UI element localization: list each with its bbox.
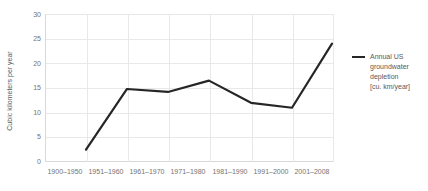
- legend-label-line-3: depletion: [370, 72, 426, 82]
- chart-legend: Annual US groundwater depletion [cu. km/…: [352, 52, 426, 92]
- gridline-x-7: [333, 14, 334, 162]
- y-axis-title: Cubic kilometers per year: [4, 26, 16, 156]
- y-tick-label-15: 15: [18, 84, 41, 91]
- y-tick-label-20: 20: [18, 60, 41, 67]
- legend-label-line-2: groundwater: [370, 62, 426, 72]
- legend-line-swatch: [352, 56, 365, 58]
- x-tick-label-3: 1971–1980: [164, 168, 212, 175]
- y-tick-label-30: 30: [18, 11, 41, 18]
- series-line-annual-us-groundwater-depletion: [45, 14, 333, 162]
- y-tick-label-5: 5: [18, 133, 41, 140]
- legend-label-line-4: [cu. km/year]: [370, 82, 426, 92]
- chart-container: Cubic kilometers per year 30 25 20 15 10…: [0, 0, 428, 191]
- y-tick-label-10: 10: [18, 109, 41, 116]
- legend-label-line-1: Annual US: [370, 52, 426, 62]
- x-tick-label-6: 2001–2008: [288, 168, 336, 175]
- y-tick-label-25: 25: [18, 35, 41, 42]
- y-tick-label-0: 0: [18, 158, 41, 165]
